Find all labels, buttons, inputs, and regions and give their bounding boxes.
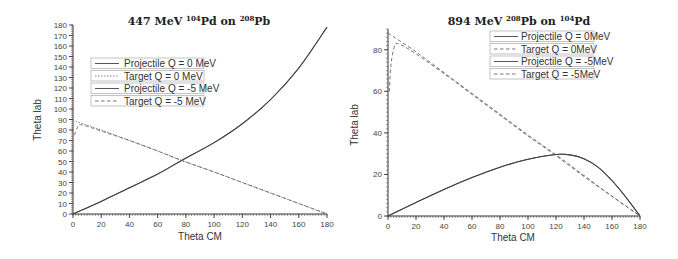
chart-left-xlabel: Theta CM	[178, 231, 222, 242]
x-tick-label: 180	[320, 220, 334, 229]
x-tick-label: 120	[549, 222, 563, 231]
x-tick-label: 20	[412, 222, 421, 231]
chart-right-title: 894 MeV 208Pb on 104Pd	[448, 14, 591, 28]
y-tick-label: 0	[63, 210, 68, 219]
y-tick-label: 0	[378, 212, 383, 221]
legend-label: Projectile Q = 0MeV	[521, 31, 611, 42]
x-tick-label: 60	[468, 222, 477, 231]
x-tick-label: 120	[236, 220, 250, 229]
y-tick-label: 170	[54, 32, 68, 41]
y-tick-label: 60	[58, 147, 67, 156]
y-tick-label: 90	[58, 116, 67, 125]
x-tick-label: 100	[207, 220, 221, 229]
chart-left-title: 447 MeV 104Pd on 208Pb	[128, 14, 271, 28]
chart-right-ylabel: Theta lab	[349, 104, 360, 146]
y-tick-label: 80	[373, 46, 382, 55]
legend-label: Projectile Q = 0 MeV	[124, 58, 216, 69]
chart-left-ylabel: Theta lab	[32, 99, 43, 141]
y-tick-label: 40	[58, 168, 67, 177]
x-tick-label: 40	[440, 222, 449, 231]
series-curve-2	[73, 27, 327, 214]
y-tick-label: 20	[58, 189, 67, 198]
y-tick-label: 150	[54, 53, 68, 62]
chart-right: 894 MeV 208Pb on 104Pd 02040608010012014…	[349, 14, 647, 243]
x-tick-label: 180	[633, 222, 647, 231]
series-curve-0	[73, 27, 327, 214]
y-tick-label: 20	[373, 170, 382, 179]
y-tick-label: 180	[54, 21, 68, 30]
x-tick-label: 0	[71, 220, 76, 229]
legend-label: Target Q = -5 MeV	[124, 96, 206, 107]
y-tick-label: 110	[54, 95, 67, 104]
legend-label: Target Q = 0MeV	[521, 44, 597, 55]
chart-right-xlabel: Theta CM	[491, 232, 535, 243]
chart-left: 447 MeV 104Pd on 208Pb 02040608010012014…	[32, 14, 334, 242]
y-tick-label: 10	[58, 200, 67, 209]
y-tick-label: 100	[54, 105, 68, 114]
x-tick-label: 100	[521, 222, 535, 231]
series-curve-2	[388, 154, 640, 216]
x-tick-label: 80	[496, 222, 505, 231]
y-tick-label: 160	[54, 42, 68, 51]
figure-canvas: 447 MeV 104Pd on 208Pb 02040608010012014…	[0, 0, 678, 259]
legend-label: Target Q = -5MeV	[521, 69, 601, 80]
x-tick-label: 20	[97, 220, 106, 229]
chart-right-legend: Projectile Q = 0MeVTarget Q = 0MeVProjec…	[490, 31, 614, 80]
legend-label: Projectile Q = -5MeV	[521, 56, 614, 67]
y-tick-label: 80	[58, 126, 67, 135]
x-tick-label: 160	[292, 220, 306, 229]
x-tick-label: 140	[577, 222, 591, 231]
x-tick-label: 80	[181, 220, 190, 229]
y-tick-label: 70	[58, 137, 67, 146]
legend-label: Target Q = 0 MeV	[124, 71, 203, 82]
series-curve-3	[74, 125, 327, 214]
y-tick-label: 140	[54, 63, 68, 72]
x-tick-label: 40	[125, 220, 134, 229]
legend-label: Projectile Q = -5 MeV	[124, 83, 220, 94]
y-tick-label: 60	[373, 87, 382, 96]
x-tick-label: 160	[605, 222, 619, 231]
y-tick-label: 50	[58, 158, 67, 167]
chart-left-legend: Projectile Q = 0 MeVTarget Q = 0 MeVProj…	[91, 58, 220, 107]
chart-left-curves	[73, 27, 327, 214]
x-tick-label: 0	[386, 222, 391, 231]
x-tick-label: 140	[264, 220, 278, 229]
chart-left-axes: 0204060801001201401601800102030405060708…	[54, 21, 335, 229]
y-tick-label: 130	[54, 74, 68, 83]
y-tick-label: 30	[58, 179, 67, 188]
x-tick-label: 60	[153, 220, 162, 229]
y-tick-label: 120	[54, 84, 68, 93]
y-tick-label: 40	[373, 129, 382, 138]
